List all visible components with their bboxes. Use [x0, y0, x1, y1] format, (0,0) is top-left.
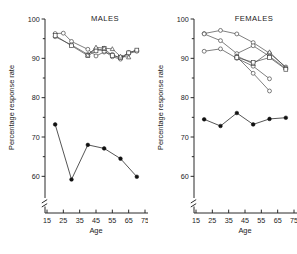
- y-tick-label: 100: [177, 15, 189, 24]
- data-point-open-triangle: [94, 45, 98, 49]
- series-markers-filled-circle-series: [53, 123, 138, 182]
- x-tick-label: 65: [125, 216, 133, 225]
- series-line-filled-circle-series: [204, 113, 286, 126]
- data-point-filled-circle: [102, 147, 106, 151]
- data-point-open-circle: [268, 77, 272, 81]
- data-point-filled-circle: [251, 123, 255, 127]
- x-tick-label: 15: [43, 216, 51, 225]
- chart-panel-males: 6070809010015253545556575AgePercentage r…: [0, 0, 148, 254]
- data-point-filled-circle: [70, 178, 74, 182]
- data-point-open-square: [127, 51, 131, 55]
- y-tick-label: 80: [32, 93, 40, 102]
- data-point-filled-circle: [284, 116, 288, 120]
- x-tick-label: 55: [108, 216, 116, 225]
- y-tick-label: 60: [181, 172, 189, 181]
- series-line-open-circle-series-2: [204, 34, 286, 69]
- data-point-open-square: [268, 56, 272, 60]
- x-tick-label: 45: [241, 216, 249, 225]
- series-line-filled-circle-series: [55, 124, 137, 179]
- data-point-filled-circle: [235, 111, 239, 115]
- data-point-open-square: [284, 67, 288, 71]
- series-markers-open-circle-series-1: [202, 28, 288, 68]
- y-tick-label: 80: [181, 93, 189, 102]
- data-point-filled-circle: [219, 124, 223, 128]
- data-point-open-circle: [219, 47, 223, 51]
- y-axis-label: Percentage response rate: [156, 65, 165, 150]
- x-axis-label: Age: [89, 226, 102, 235]
- x-tick-label: 35: [76, 216, 84, 225]
- series-markers-filled-circle-series: [202, 111, 287, 128]
- y-tick-label: 60: [32, 172, 40, 181]
- data-point-open-circle: [219, 39, 223, 43]
- panel-title: MALES: [91, 14, 119, 23]
- males-plot-group: 6070809010015253545556575AgePercentage r…: [7, 14, 148, 235]
- data-point-open-square: [53, 34, 57, 38]
- data-point-open-circle: [268, 89, 272, 93]
- x-tick-label: 75: [290, 216, 297, 225]
- y-axis-break-icon: [42, 200, 47, 207]
- data-point-open-circle: [251, 71, 255, 75]
- data-point-open-circle: [61, 31, 65, 35]
- data-point-open-circle: [202, 32, 206, 36]
- y-tick-label: 70: [181, 133, 189, 142]
- y-tick-label: 70: [32, 133, 40, 142]
- data-point-open-circle: [202, 49, 206, 53]
- females-chart-svg: 6070809010015253545556575AgePercentage r…: [149, 0, 297, 254]
- x-tick-label: 15: [192, 216, 200, 225]
- figure-root: 6070809010015253545556575AgePercentage r…: [0, 0, 297, 254]
- data-point-filled-circle: [119, 157, 123, 161]
- data-point-filled-circle: [53, 123, 57, 127]
- data-point-filled-circle: [135, 175, 139, 179]
- x-tick-label: 75: [141, 216, 148, 225]
- data-point-open-circle: [86, 47, 90, 51]
- x-tick-label: 25: [59, 216, 67, 225]
- y-axis-label: Percentage response rate: [7, 65, 16, 150]
- x-tick-label: 45: [92, 216, 100, 225]
- data-point-open-square: [94, 49, 98, 53]
- data-point-filled-circle: [86, 143, 90, 147]
- data-point-open-circle: [94, 54, 98, 58]
- y-tick-label: 100: [28, 15, 40, 24]
- chart-panel-females: 6070809010015253545556575AgePercentage r…: [149, 0, 297, 254]
- data-point-filled-circle: [268, 117, 272, 121]
- data-point-open-circle: [251, 44, 255, 48]
- x-axis-label: Age: [238, 226, 251, 235]
- x-tick-label: 65: [274, 216, 282, 225]
- y-tick-label: 90: [181, 54, 189, 63]
- females-plot-group: 6070809010015253545556575AgePercentage r…: [156, 14, 297, 235]
- data-point-open-circle: [235, 32, 239, 36]
- males-chart-svg: 6070809010015253545556575AgePercentage r…: [0, 0, 148, 254]
- data-point-open-circle: [219, 28, 223, 32]
- data-point-open-square: [251, 60, 255, 64]
- data-point-open-square: [135, 48, 139, 52]
- x-tick-label: 25: [208, 216, 216, 225]
- data-point-filled-circle: [202, 117, 206, 121]
- panel-title: FEMALES: [235, 14, 274, 23]
- data-point-open-square: [235, 56, 239, 60]
- x-tick-label: 35: [225, 216, 233, 225]
- data-point-open-square: [110, 54, 114, 58]
- x-tick-label: 55: [257, 216, 265, 225]
- series-line-open-circle-series-1: [204, 30, 286, 67]
- y-axis-break-icon: [191, 200, 196, 207]
- y-tick-label: 90: [32, 54, 40, 63]
- data-point-open-square: [70, 44, 74, 48]
